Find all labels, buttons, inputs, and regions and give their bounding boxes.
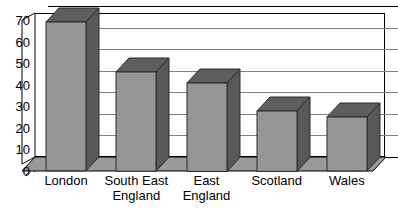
x-axis-label-line2: England (101, 188, 171, 203)
bar (327, 103, 382, 173)
x-axis-label: East England (171, 173, 241, 203)
x-axis-label-line1: South East (101, 173, 171, 188)
bar-3d-shape (116, 58, 171, 173)
bar (187, 69, 242, 173)
bar-side-face (227, 69, 240, 171)
bar-3d-shape (257, 97, 312, 173)
bar-front-face (187, 83, 227, 171)
bar-3d-shape (46, 8, 101, 173)
x-axis-label-line1: Wales (312, 173, 382, 188)
x-axis-label: London (31, 173, 101, 188)
x-axis-label: Wales (312, 173, 382, 188)
bar (116, 58, 171, 173)
bar-front-face (116, 72, 156, 171)
x-axis-label-line1: Scotland (242, 173, 312, 188)
bar-3d-shape (327, 103, 382, 173)
bar (46, 8, 101, 173)
x-axis-labels: LondonSouth EastEnglandEast EnglandScotl… (0, 173, 397, 211)
x-axis-label-line1: East England (171, 173, 241, 203)
bar-side-face (86, 8, 99, 171)
bar-front-face (327, 117, 367, 171)
bar (257, 97, 312, 173)
x-axis-label-line1: London (31, 173, 101, 188)
x-axis-label: South EastEngland (101, 173, 171, 203)
bar-side-face (156, 58, 169, 171)
bar-front-face (46, 22, 86, 171)
bar-3d-shape (187, 69, 242, 173)
x-axis-label: Scotland (242, 173, 312, 188)
bar-front-face (257, 111, 297, 171)
